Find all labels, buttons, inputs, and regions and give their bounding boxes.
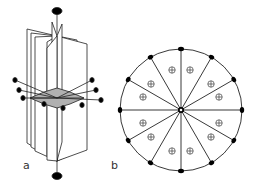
top-axis-symbol-icon — [52, 8, 62, 15]
panel-a-label: a — [23, 159, 30, 172]
panel-b-label: b — [111, 159, 118, 172]
panel-b-stereogram — [118, 47, 244, 173]
diagram-canvas — [0, 0, 256, 188]
panel-a-mirror-planes — [13, 8, 103, 180]
bottom-axis-symbol-icon — [52, 173, 62, 180]
